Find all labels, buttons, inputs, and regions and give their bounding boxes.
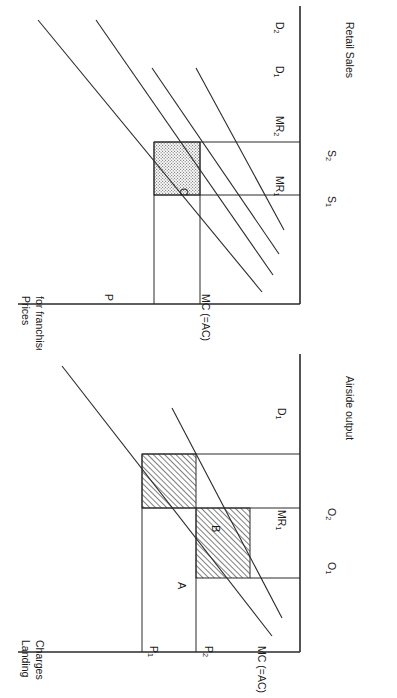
curve-label-mr2: MR2 <box>272 116 287 136</box>
figure-canvas: D2 D1 MR2 MR1 S2 S1 Retail Sales P MC (=… <box>0 0 397 698</box>
tick-label-mc-ac-top: MC (=AC) <box>200 294 212 341</box>
tick-label-p: P <box>103 294 115 301</box>
tick-label-o2: O2 <box>324 508 339 520</box>
tick-label-o1: O1 <box>324 562 339 574</box>
bottom-x-axis-title: Airside output <box>344 376 356 440</box>
curve-label-d1: D1 <box>272 66 287 78</box>
curve-label-bottom-mr1: MR1 <box>274 510 289 530</box>
region-a-rect <box>196 508 250 578</box>
bottom-panel-labels: D1 MR1 O2 O1 Airside output P1 P2 MC (=A… <box>20 376 356 693</box>
curve-mr1 <box>196 68 284 230</box>
bottom-y-axis-title-line1: Landing <box>20 640 32 678</box>
bottom-y-axis-title-line2: Charges <box>34 640 46 680</box>
curve-label-bottom-d1: D1 <box>274 408 289 420</box>
region-label-a: A <box>176 582 188 590</box>
airside-output-chart: D1 MR1 O2 O1 Airside output P1 P2 MC (=A… <box>0 350 397 698</box>
region-label-b: B <box>210 525 222 532</box>
retail-sales-chart: D2 D1 MR2 MR1 S2 S1 Retail Sales P MC (=… <box>0 0 397 350</box>
curve-bottom-d1 <box>62 366 272 636</box>
curve-label-mr1: MR1 <box>272 176 287 196</box>
region-label-c: C <box>178 188 190 196</box>
top-y-axis-title-line1: Prices <box>20 296 32 325</box>
top-x-axis-title: Retail Sales <box>344 22 356 78</box>
region-b-rect <box>142 454 196 508</box>
tick-label-s2: S2 <box>324 150 339 161</box>
curve-d2 <box>38 20 262 292</box>
curve-label-d2: D2 <box>272 22 287 34</box>
tick-label-mc-ac-bottom: MC (=AC) <box>256 646 268 693</box>
tick-label-s1: S1 <box>324 196 339 207</box>
top-y-axis-title-line2: for franchises <box>34 296 46 350</box>
curve-d1 <box>96 20 273 275</box>
